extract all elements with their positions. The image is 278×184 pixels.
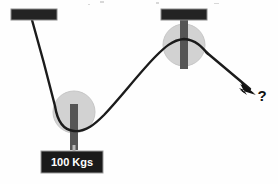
right-ceiling-anchor-block [161, 9, 207, 20]
weight-block: 100 Kgs [41, 151, 103, 173]
right-ceiling-anchor [161, 9, 207, 20]
movable-pulley-hanger [70, 104, 78, 150]
left-ceiling-anchor-block [11, 9, 57, 20]
left-ceiling-anchor [11, 9, 57, 20]
diagram-svg: ? 100 Kgs [0, 0, 278, 184]
fixed-pulley-hanger [180, 17, 188, 69]
unknown-force-label: ? [257, 87, 266, 104]
pulley-diagram-canvas: ? 100 Kgs [0, 0, 278, 184]
weight-label: 100 Kgs [51, 156, 93, 168]
